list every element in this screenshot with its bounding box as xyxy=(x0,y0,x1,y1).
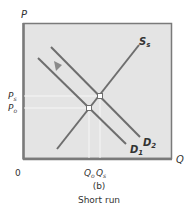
price-ps-label: Ps xyxy=(8,91,17,102)
panel-label: (b) xyxy=(93,181,106,191)
equilibrium-point-short-run xyxy=(98,94,103,99)
origin-label: 0 xyxy=(15,168,21,178)
quantity-qo-label: Qo xyxy=(84,168,95,179)
y-axis-label: P xyxy=(21,9,28,20)
x-axis-label: Q xyxy=(176,154,184,165)
short-run-diagram: P Q 0 Ps Po Qo Qs Ss D2 D1 (b) Short run xyxy=(0,0,188,211)
quantity-qs-label: Qs xyxy=(96,168,106,179)
diagram-caption: Short run xyxy=(78,195,120,205)
price-po-label: Po xyxy=(8,103,17,114)
equilibrium-point-original xyxy=(87,106,92,111)
